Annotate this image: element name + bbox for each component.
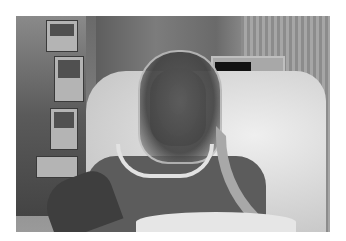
device-display xyxy=(36,156,78,178)
photograph xyxy=(16,16,330,232)
infusion-pump xyxy=(46,20,78,52)
infusion-pump xyxy=(54,56,84,102)
infusion-pump xyxy=(50,108,78,150)
bed-sheet xyxy=(136,212,296,232)
